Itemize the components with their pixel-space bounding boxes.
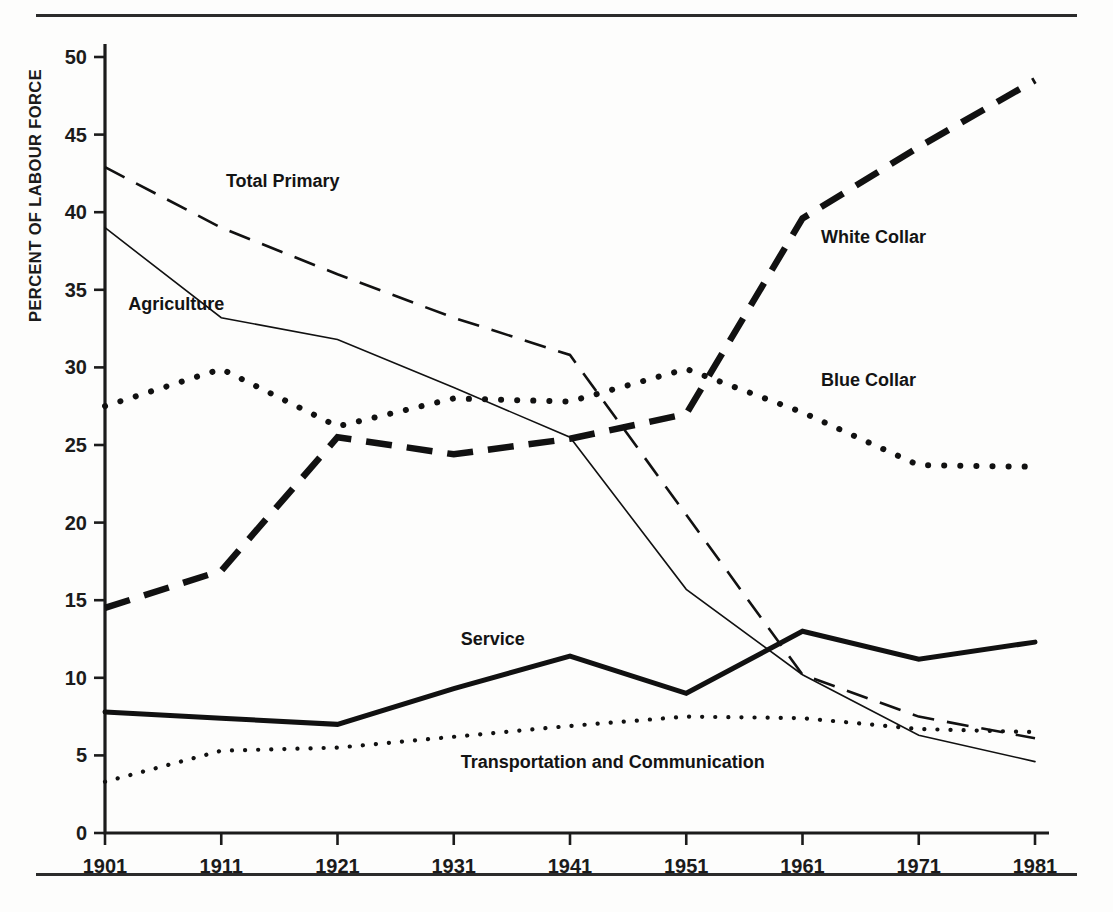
series-label-total-primary: Total Primary [226, 171, 340, 191]
y-tick-label: 10 [65, 667, 87, 689]
chart-figure: PERCENT OF LABOUR FORCE 0510152025303540… [0, 22, 1113, 862]
series-line-white-collar [105, 80, 1035, 608]
x-tick-label: 1931 [432, 855, 477, 877]
y-tick-label: 50 [65, 46, 87, 68]
top-divider-rule [36, 14, 1077, 17]
x-tick-label: 1921 [315, 855, 360, 877]
y-tick-label: 35 [65, 279, 87, 301]
x-tick-label: 1961 [780, 855, 825, 877]
y-tick-label: 5 [76, 744, 87, 766]
y-tick-label: 0 [76, 822, 87, 844]
series-label-blue-collar: Blue Collar [821, 370, 916, 390]
line-chart-svg: 0510152025303540455019011911192119311941… [0, 22, 1113, 882]
y-tick-label: 20 [65, 512, 87, 534]
x-tick-label: 1901 [83, 855, 128, 877]
y-tick-label: 40 [65, 201, 87, 223]
y-tick-label: 30 [65, 356, 87, 378]
x-tick-label: 1971 [897, 855, 942, 877]
y-tick-label: 45 [65, 124, 87, 146]
series-label-transportation-and-communication: Transportation and Communication [461, 752, 765, 772]
x-tick-label: 1981 [1013, 855, 1058, 877]
series-line-transportation-and-communication [105, 717, 1035, 782]
series-label-service: Service [461, 629, 525, 649]
series-label-white-collar: White Collar [821, 227, 926, 247]
plot-area: 0510152025303540455019011911192119311941… [0, 22, 1113, 882]
x-tick-label: 1911 [200, 855, 243, 877]
series-line-agriculture [105, 228, 1035, 762]
series-label-agriculture: Agriculture [128, 294, 224, 314]
x-tick-label: 1951 [664, 855, 709, 877]
y-tick-label: 15 [65, 589, 87, 611]
y-tick-label: 25 [65, 434, 87, 456]
series-line-service [105, 631, 1035, 724]
figure-page: PERCENT OF LABOUR FORCE 0510152025303540… [0, 0, 1113, 912]
x-tick-label: 1941 [548, 855, 593, 877]
